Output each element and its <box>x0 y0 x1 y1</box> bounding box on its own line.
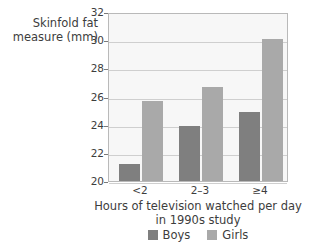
bar-girls <box>262 39 283 181</box>
x-axis-tick-label: 2–3 <box>170 184 230 196</box>
y-axis-tick-label: 20 <box>76 175 104 187</box>
legend-swatch-girls <box>207 230 217 240</box>
y-axis-tick-mark <box>104 182 108 183</box>
legend-label: Boys <box>163 228 191 242</box>
y-axis-tick-label: 24 <box>76 119 104 131</box>
x-axis-tick-label: ≥4 <box>230 184 290 196</box>
bar-boys <box>179 126 200 181</box>
bar-girls <box>142 101 163 181</box>
bar-group <box>119 14 163 181</box>
legend-item-boys: Boys <box>148 228 191 242</box>
bar-girls <box>202 87 223 181</box>
bar-group <box>179 14 223 181</box>
y-axis-tick-label: 22 <box>76 147 104 159</box>
y-axis-tick-label: 28 <box>76 62 104 74</box>
y-axis-title-line-1: Skinfold fat <box>2 16 98 30</box>
y-axis-tick-label: 32 <box>76 6 104 18</box>
chart-legend: BoysGirls <box>92 228 304 242</box>
legend-item-girls: Girls <box>207 228 248 242</box>
x-axis-title-line-2: in 1990s study <box>92 213 304 227</box>
bar-boys <box>239 112 260 181</box>
y-axis-tick-label: 30 <box>76 34 104 46</box>
legend-label: Girls <box>222 228 248 242</box>
x-axis-title-line-1: Hours of television watched per day <box>92 199 304 213</box>
y-axis-tick-label: 26 <box>76 91 104 103</box>
plot-area <box>108 13 288 182</box>
skinfold-fat-bar-chart: Skinfold fat measure (mm) 32302826242220… <box>0 0 312 248</box>
bar-boys <box>119 164 140 181</box>
x-axis-title: Hours of television watched per day in 1… <box>92 199 304 227</box>
bar-group <box>239 14 283 181</box>
x-axis-tick-label: <2 <box>110 184 170 196</box>
legend-swatch-boys <box>148 230 158 240</box>
